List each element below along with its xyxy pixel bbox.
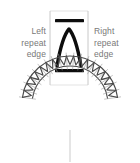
repeat-edge-diagram: Left repeat edge Right repeat edge xyxy=(0,0,140,163)
bottom-bar xyxy=(55,69,84,72)
top-bar xyxy=(55,19,84,22)
diagram-artwork xyxy=(0,0,140,163)
